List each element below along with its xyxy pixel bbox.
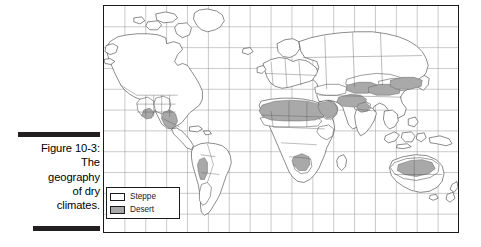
landmass-arctic-islet-a — [134, 17, 145, 24]
landmass-hispaniola — [203, 131, 211, 135]
landmass-south-america — [192, 143, 232, 215]
map-legend: Steppe Desert — [106, 187, 180, 219]
legend-item-steppe: Steppe — [110, 191, 176, 202]
landmass-arctic-islands — [156, 12, 178, 23]
legend-swatch-steppe — [110, 193, 125, 201]
landmass-borneo — [401, 132, 415, 142]
legend-label-desert: Desert — [130, 205, 154, 214]
legend-item-desert: Desert — [110, 204, 176, 215]
legend-label-steppe: Steppe — [130, 192, 156, 201]
landmass-tasmania — [429, 194, 438, 200]
landmass-java — [396, 144, 411, 149]
steppe-anatolia — [315, 84, 347, 95]
desert-gobi — [390, 77, 422, 89]
caption-line-2: geography — [0, 170, 100, 184]
legend-swatch-desert — [110, 206, 125, 214]
landmass-sulawesi — [416, 133, 426, 142]
landmass-greenland — [193, 9, 224, 32]
desert-sahara — [259, 100, 325, 121]
landmass-madagascar — [337, 155, 347, 171]
landmass-scandinavia — [277, 39, 300, 58]
landmass-iceland — [242, 48, 253, 55]
landmass-north-america — [107, 34, 202, 129]
landmass-new-guinea — [429, 136, 452, 146]
landmass-victoria-island — [146, 21, 162, 30]
landmass-baffin — [175, 23, 192, 38]
world-map-figure: .coast { fill:#ffffff; stroke:#2b2b2b; s… — [103, 5, 459, 233]
landmass-europe — [263, 58, 319, 89]
figure-label: Figure 10-3: — [0, 141, 100, 155]
landmass-new-zealand — [450, 181, 458, 192]
caption-line-1: The — [0, 155, 100, 169]
figure-caption-block: Figure 10-3: The geography of dry climat… — [0, 0, 103, 247]
caption-line-3: of dry — [0, 184, 100, 198]
caption-line-4: climates. — [0, 198, 100, 212]
landmass-philippines — [408, 117, 418, 127]
landmass-sumatra — [384, 132, 399, 143]
caption-rule-bottom — [33, 226, 100, 231]
figure-caption-text: Figure 10-3: The geography of dry climat… — [0, 141, 100, 212]
caption-rule-top — [18, 132, 100, 137]
landmass-new-zealand-south — [446, 192, 455, 202]
